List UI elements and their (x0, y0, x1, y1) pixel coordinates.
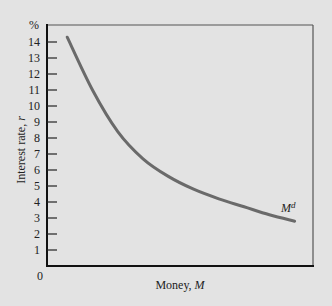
y-tick-label: 6 (34, 163, 40, 177)
y-tick-label: 4 (34, 195, 40, 209)
y-tick-label: 11 (28, 83, 40, 97)
y-tick-label: 14 (28, 35, 40, 49)
y-tick-label: 8 (34, 131, 40, 145)
y-unit-label: % (29, 18, 39, 32)
money-demand-curve (67, 37, 294, 221)
md-label-superscript: d (291, 200, 296, 210)
money-demand-chart: 1234567891011121314 % 0 Md Money, M Inte… (0, 0, 332, 306)
y-tick-label: 12 (28, 67, 40, 81)
y-tick-label: 13 (28, 51, 40, 65)
y-tick-label: 9 (34, 115, 40, 129)
y-tick-label: 7 (34, 147, 40, 161)
chart-canvas: 1234567891011121314 % 0 Md Money, M Inte… (0, 0, 332, 306)
y-ticks: 1234567891011121314 (28, 35, 57, 257)
y-axis-title: Interest rate, r (14, 116, 28, 184)
x-axis-title-text: Money, (155, 278, 194, 292)
y-tick-label: 3 (34, 211, 40, 225)
y-tick-label: 2 (34, 227, 40, 241)
y-axis-title-text: Interest rate, (14, 121, 28, 184)
x-axis-title-var: M (194, 278, 206, 292)
x-axis-title: Money, M (155, 278, 205, 292)
y-axis-title-var: r (14, 116, 28, 121)
origin-label: 0 (37, 269, 43, 283)
y-tick-label: 5 (34, 179, 40, 193)
md-curve-label: Md (280, 200, 296, 215)
y-tick-label: 10 (28, 99, 40, 113)
y-tick-label: 1 (34, 243, 40, 257)
